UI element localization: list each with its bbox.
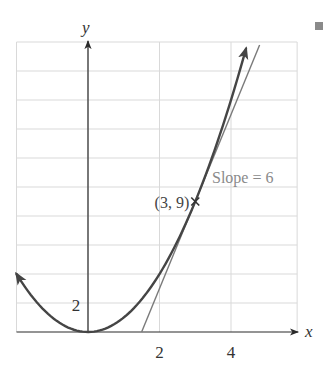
x-tick-label-2: 2 xyxy=(155,343,164,362)
y-axis-title: y xyxy=(80,18,90,37)
grid xyxy=(17,42,298,332)
y-tick-label-2: 2 xyxy=(72,296,81,315)
x-tick-label-4: 4 xyxy=(227,343,236,362)
parabola-tangent-chart: x y 2 4 2 (3, 9) Slope = 6 xyxy=(0,0,327,373)
parabola-curve xyxy=(17,49,247,332)
point-label: (3, 9) xyxy=(155,194,190,212)
x-axis-title: x xyxy=(304,322,313,341)
section-marker-square xyxy=(315,22,323,30)
slope-label: Slope = 6 xyxy=(212,169,273,187)
